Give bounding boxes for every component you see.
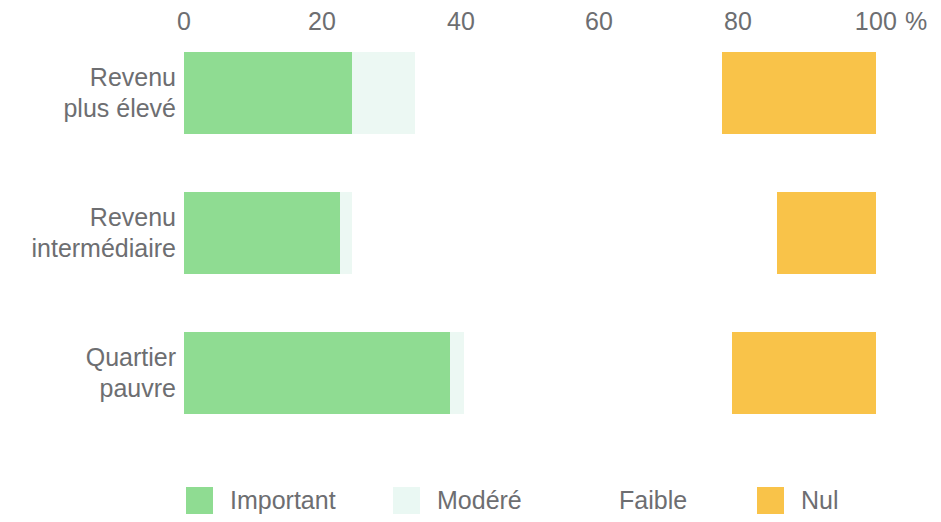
legend-item-faible[interactable]: Faible (575, 478, 687, 522)
bar-segment-modere (340, 192, 352, 274)
legend-label-nul: Nul (801, 485, 839, 515)
legend-item-modere[interactable]: Modéré (393, 478, 522, 522)
category-label-revenu-intermediaire: Revenu intermédiaire (31, 202, 176, 264)
bar-segment-faible (415, 52, 722, 134)
legend-item-nul[interactable]: Nul (757, 478, 839, 522)
x-axis-tick-100: 100 (855, 6, 897, 36)
bar-row-revenu-plus-eleve: Revenu plus élevé (0, 52, 941, 134)
legend-label-important: Important (230, 485, 336, 515)
x-axis-tick-40: 40 (447, 6, 475, 36)
legend-swatch-icon-faible (575, 487, 602, 514)
legend-swatch-icon-modere (393, 487, 420, 514)
bar-row-quartier-pauvre: Quartier pauvre (0, 332, 941, 414)
bar-segment-nul (777, 192, 876, 274)
bar-segment-faible (352, 192, 777, 274)
x-axis-unit-label: % (905, 6, 927, 36)
plot-area: Revenu plus élevé Revenu intermédiaire Q… (0, 44, 941, 444)
x-axis-tick-60: 60 (585, 6, 613, 36)
category-label-revenu-plus-eleve: Revenu plus élevé (63, 62, 176, 124)
legend-swatch-icon-important (186, 487, 213, 514)
legend-item-important[interactable]: Important (186, 478, 336, 522)
legend-label-faible: Faible (619, 485, 687, 515)
x-axis-tick-20: 20 (308, 6, 336, 36)
bar-row-revenu-intermediaire: Revenu intermédiaire (0, 192, 941, 274)
bar-segment-faible (464, 332, 732, 414)
bar-segment-important (184, 332, 450, 414)
bar-segment-nul (732, 332, 876, 414)
category-label-quartier-pauvre: Quartier pauvre (86, 342, 176, 404)
legend-swatch-icon-nul (757, 487, 784, 514)
bar-segment-important (184, 52, 352, 134)
bar-segment-important (184, 192, 340, 274)
legend-label-modere: Modéré (437, 485, 522, 515)
stacked-bar-chart: 0 20 40 60 80 100 % Revenu plus élevé Re… (0, 0, 941, 522)
chart-legend: Important Modéré Faible Nul (0, 478, 941, 522)
x-axis-tick-80: 80 (724, 6, 752, 36)
x-axis: 0 20 40 60 80 100 % (0, 0, 941, 44)
bar-segment-modere (352, 52, 415, 134)
x-axis-tick-0: 0 (177, 6, 191, 36)
bar-segment-nul (722, 52, 876, 134)
bar-segment-modere (450, 332, 464, 414)
